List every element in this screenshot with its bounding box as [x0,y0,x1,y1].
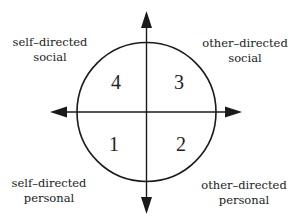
quadrant-number-1: 1 [109,134,119,154]
label-line: social [202,51,288,66]
arrow-up-icon [141,11,152,28]
quadrant-number-3: 3 [174,72,184,92]
quadrant-number-2: 2 [176,134,186,154]
quadrant-number-4: 4 [111,72,121,92]
label-line: personal [201,193,287,208]
label-self-directed-personal: self–directed personal [12,176,87,206]
label-line: personal [12,191,87,206]
arrow-right-icon [225,107,242,118]
label-line: social [13,50,88,65]
label-line: self–directed [12,176,87,191]
arrow-left-icon [50,107,67,118]
arrow-down-icon [141,197,152,214]
label-other-directed-social: other–directed social [202,36,288,66]
label-line: self–directed [13,35,88,50]
label-self-directed-social: self–directed social [13,35,88,65]
label-line: other–directed [202,36,288,51]
quadrant-diagram: 4 3 1 2 self–directed social other–direc… [0,0,298,223]
label-other-directed-personal: other–directed personal [201,178,287,208]
label-line: other–directed [201,178,287,193]
